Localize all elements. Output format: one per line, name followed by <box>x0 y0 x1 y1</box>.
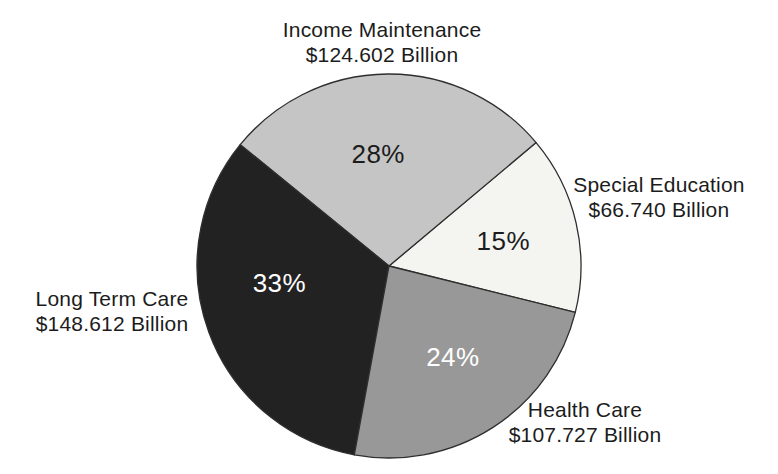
slice-label-amount: $107.727 Billion <box>485 423 685 448</box>
slice-label-health-care: Health Care $107.727 Billion <box>485 398 685 448</box>
pie-slice-pct-health-care: 24% <box>426 342 480 372</box>
slice-label-special-education: Special Education $66.740 Billion <box>559 173 759 223</box>
slice-label-title: Special Education <box>559 173 759 198</box>
slice-label-title: Income Maintenance <box>232 18 532 43</box>
pie-slice-pct-special-education: 15% <box>477 226 531 256</box>
slice-label-amount: $66.740 Billion <box>559 198 759 223</box>
slice-label-long-term-care: Long Term Care $148.612 Billion <box>12 287 212 337</box>
slice-label-amount: $124.602 Billion <box>232 43 532 68</box>
pie-chart-figure: 15%28%33%24% Income Maintenance $124.602… <box>0 0 778 474</box>
pie-slice-pct-long-term-care: 33% <box>253 268 307 298</box>
pie-slice-pct-income-maintenance: 28% <box>351 139 405 169</box>
slice-label-title: Long Term Care <box>12 287 212 312</box>
slice-label-title: Health Care <box>485 398 685 423</box>
slice-label-amount: $148.612 Billion <box>12 312 212 337</box>
slice-label-income-maintenance: Income Maintenance $124.602 Billion <box>232 18 532 68</box>
